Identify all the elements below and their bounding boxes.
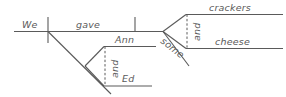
label-direct-conjunction: and bbox=[192, 23, 202, 41]
indirect-fork-lower bbox=[85, 66, 104, 86]
label-indirect-object-2: Ed bbox=[122, 74, 134, 84]
label-indirect-conjunction: and bbox=[110, 60, 120, 78]
indirect-object-slant bbox=[48, 32, 111, 95]
direct-fork-upper bbox=[163, 15, 186, 32]
label-indirect-object-1: Ann bbox=[115, 35, 134, 45]
label-direct-object-1: crackers bbox=[209, 3, 251, 13]
label-subject: We bbox=[22, 20, 38, 30]
indirect-fork-upper bbox=[85, 47, 104, 67]
sentence-diagram: We gave Ann and Ed some crackers and che… bbox=[0, 0, 286, 97]
label-direct-object-2: cheese bbox=[215, 37, 250, 47]
diagram-lines bbox=[0, 0, 286, 97]
label-verb: gave bbox=[76, 20, 100, 30]
